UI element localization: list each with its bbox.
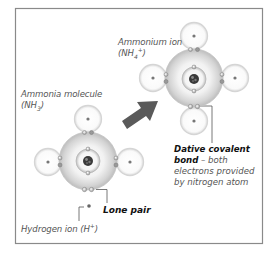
dative-note-text: by nitrogen atom (174, 177, 248, 187)
formula-text: (NH (21, 100, 37, 110)
hydrogen-atom-dative (181, 108, 208, 135)
dative-bond-note: Dative covalent bond – both electrons pr… (174, 144, 254, 188)
dative-bond-term: bond (174, 155, 198, 165)
ammonium-ion-label: Ammonium ion (NH4+) (118, 37, 182, 59)
hydrogen-atom (117, 149, 144, 176)
hydrogen-ion (87, 204, 91, 208)
hydrogen-atom (222, 65, 249, 92)
ammonium-title: Ammonium ion (118, 37, 182, 47)
dative-note-text: – both (198, 155, 227, 165)
hydrogen-atom (35, 149, 62, 176)
formula-subscript: 4 (134, 53, 138, 60)
hydrogen-ion-label: Hydrogen ion (H+) (21, 224, 98, 235)
dative-bond-term: Dative covalent (174, 144, 250, 154)
hydrogen-ion-text: ) (95, 224, 98, 234)
formula-text: (NH (118, 48, 134, 58)
ammonia-molecule-label: Ammonia molecule (NH3) (21, 89, 102, 111)
dative-note-text: electrons provided (174, 166, 254, 176)
hydrogen-atom (140, 65, 167, 92)
nucleus (83, 156, 93, 166)
formula-text: ) (41, 100, 44, 110)
lone-pair-label: Lone pair (103, 205, 151, 216)
nucleus (189, 74, 199, 84)
hydrogen-atom (181, 23, 208, 50)
hydrogen-ion-text: Hydrogen ion (H (21, 224, 90, 234)
ammonia-title: Ammonia molecule (21, 89, 102, 99)
formula-text: ) (143, 48, 146, 58)
ammonia-formula: (NH3) (21, 100, 44, 110)
ammonium-formula: (NH4+) (118, 48, 146, 58)
